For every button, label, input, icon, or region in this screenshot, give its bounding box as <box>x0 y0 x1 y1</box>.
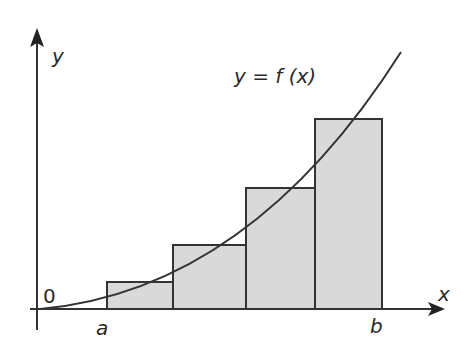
x-axis-label: x <box>438 284 450 304</box>
rectangle-2 <box>173 245 246 309</box>
rectangles <box>107 119 382 309</box>
interval-start-label: a <box>96 318 108 338</box>
rectangle-3 <box>246 188 315 309</box>
y-axis-label: y <box>52 46 64 66</box>
riemann-sum-diagram <box>0 0 468 348</box>
rectangle-4 <box>315 119 382 309</box>
curve-label: y = f (x) <box>234 66 316 86</box>
interval-end-label: b <box>370 316 383 336</box>
origin-label: 0 <box>43 286 56 306</box>
